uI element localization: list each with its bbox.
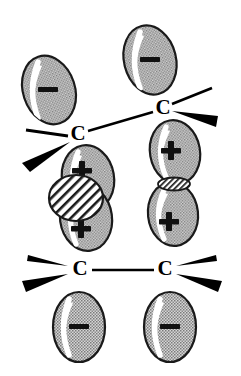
lobe-sign-minus xyxy=(160,324,180,329)
diagram-canvas: C C xyxy=(0,0,241,376)
lobe-sign-minus xyxy=(69,324,89,329)
atom-label-c-bottom-right: C xyxy=(157,256,172,280)
overlap-region-left xyxy=(49,175,103,221)
atom-label-c-top-right: C xyxy=(155,95,170,119)
pi-orbital-overlap-diagram: C C xyxy=(0,0,241,376)
lobe-sign-minus xyxy=(38,87,58,92)
lobe-sign-minus xyxy=(140,57,160,62)
orbital-lobe-bottom-right-lower xyxy=(144,292,196,362)
overlap-region-right xyxy=(158,178,190,191)
atom-label-c-top-left: C xyxy=(70,121,85,145)
atom-label-c-bottom-left: C xyxy=(72,256,87,280)
orbital-lobe-bottom-left-lower xyxy=(53,292,105,362)
